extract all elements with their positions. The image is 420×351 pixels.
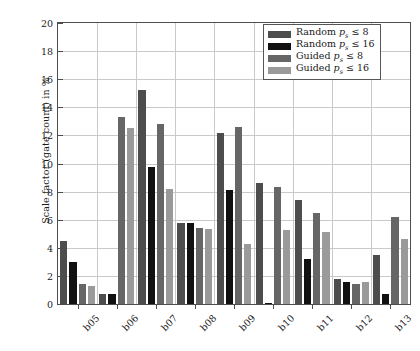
x-tick-mark (234, 304, 235, 309)
bar (157, 124, 164, 304)
x-tick-label: b05 (80, 312, 101, 333)
y-tick-mark (58, 304, 63, 305)
bar (138, 90, 145, 304)
bar (256, 183, 263, 304)
x-tick-label: b11 (315, 312, 336, 333)
bar (187, 223, 194, 304)
bar (391, 217, 398, 304)
gridline-vertical (97, 23, 98, 304)
gridline-horizontal (58, 107, 410, 108)
x-tick-mark (195, 304, 196, 309)
gridline-vertical (175, 23, 176, 304)
bar (401, 239, 408, 304)
bar (127, 128, 134, 304)
x-tick-label: b07 (159, 312, 180, 333)
legend-item: Guided ps ≤ 16 (268, 64, 375, 76)
bar (166, 189, 173, 304)
x-tick-mark (273, 304, 274, 309)
x-tick-label: b09 (237, 312, 258, 333)
bar-chart: Scale factor (gate count) in % 024681012… (0, 0, 420, 351)
y-tick-mark (58, 164, 63, 165)
y-tick-label: 6 (47, 214, 53, 225)
bar (99, 294, 106, 304)
bar (226, 190, 233, 304)
bar (79, 284, 86, 304)
y-tick-label: 12 (41, 130, 53, 141)
y-tick-mark (58, 51, 63, 52)
gridline-horizontal (58, 135, 410, 136)
y-tick-mark (58, 135, 63, 136)
bar (322, 232, 329, 304)
legend-swatch (268, 43, 291, 50)
bar (205, 229, 212, 304)
x-tick-label: b13 (393, 312, 414, 333)
bar (304, 259, 311, 304)
x-tick-mark (390, 304, 391, 309)
bar (295, 200, 302, 304)
bar (362, 282, 369, 304)
x-tick-mark (117, 304, 118, 309)
bar (196, 228, 203, 304)
x-tick-mark (351, 304, 352, 309)
bar (69, 262, 76, 304)
y-tick-label: 4 (47, 242, 53, 253)
y-tick-label: 16 (41, 74, 53, 85)
y-tick-mark (58, 23, 63, 24)
bar (265, 303, 272, 304)
bar (343, 282, 350, 304)
bar (60, 241, 67, 304)
y-tick-label: 8 (47, 186, 53, 197)
y-tick-label: 20 (41, 18, 53, 29)
gridline-horizontal (58, 248, 410, 249)
bar (283, 230, 290, 304)
x-tick-mark (312, 304, 313, 309)
y-tick-mark (58, 107, 63, 108)
bar (177, 223, 184, 304)
bar (334, 279, 341, 304)
y-tick-mark (58, 220, 63, 221)
legend-label: Guided ps ≤ 16 (296, 62, 369, 78)
y-tick-mark (58, 192, 63, 193)
gridline-horizontal (58, 192, 410, 193)
gridline-horizontal (58, 276, 410, 277)
bar (313, 213, 320, 304)
bar (108, 294, 115, 304)
bar (148, 167, 155, 304)
bar (88, 286, 95, 304)
x-tick-label: b12 (354, 312, 375, 333)
gridline-horizontal (58, 164, 410, 165)
gridline-horizontal (58, 220, 410, 221)
gridline-vertical (136, 23, 137, 304)
x-tick-label: b10 (276, 312, 297, 333)
x-tick-mark (156, 304, 157, 309)
bar (235, 127, 242, 304)
bar (244, 244, 251, 304)
gridline-vertical (214, 23, 215, 304)
y-tick-label: 2 (47, 270, 53, 281)
x-tick-label: b08 (198, 312, 219, 333)
bar (352, 284, 359, 304)
y-tick-label: 0 (47, 299, 53, 310)
legend: Random ps ≤ 8Random ps ≤ 16Guided ps ≤ 8… (263, 24, 381, 80)
x-tick-label: b06 (120, 312, 141, 333)
legend-swatch (268, 31, 291, 38)
legend-swatch (268, 55, 291, 62)
bar (274, 187, 281, 304)
bar (217, 133, 224, 304)
y-tick-label: 10 (41, 158, 53, 169)
y-tick-label: 14 (41, 102, 53, 113)
legend-swatch (268, 67, 291, 74)
y-tick-mark (58, 79, 63, 80)
bar (382, 294, 389, 304)
bar (118, 117, 125, 304)
gridline-vertical (254, 23, 255, 304)
bar (373, 255, 380, 304)
x-tick-mark (78, 304, 79, 309)
y-tick-label: 18 (41, 46, 53, 57)
